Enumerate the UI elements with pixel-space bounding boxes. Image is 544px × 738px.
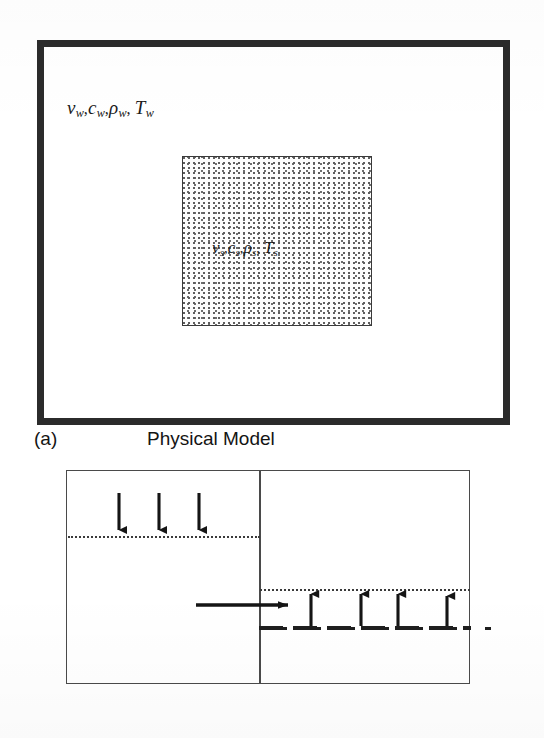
panel-thermo-mechanical-model: vw,cw,ρw, Tw vs,cs,ρs, Ts q (b) Thermo-m… [0, 460, 544, 738]
thermo-model-box [66, 470, 470, 684]
panel-physical-model: vw,cw,ρw, Tw vs,cs,ρs, Ts (a) Physical M… [0, 0, 544, 460]
interface-divider-line [259, 470, 261, 684]
dash-dot-base-line [259, 626, 471, 630]
left-dotted-boundary-line [68, 536, 260, 538]
panel-a-title: Physical Model [147, 428, 275, 450]
figure-root: vw,cw,ρw, Tw vs,cs,ρs, Ts (a) Physical M… [0, 0, 544, 738]
water-properties-label-a: vw,cw,ρw, Tw [67, 97, 154, 121]
right-dotted-boundary-line [260, 589, 470, 591]
solid-properties-label-a: vs,cs,ρs, Ts [212, 238, 278, 258]
panel-a-tag: (a) [34, 428, 57, 450]
